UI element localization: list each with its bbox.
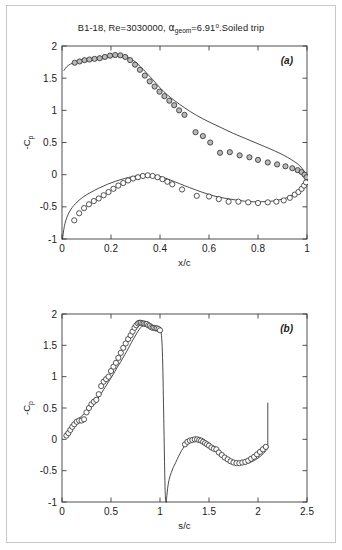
data-marker — [170, 182, 175, 187]
data-marker — [226, 199, 231, 204]
axes-box — [62, 314, 307, 502]
data-marker — [77, 59, 82, 64]
data-marker — [113, 52, 118, 57]
x-tick-label: 0.5 — [104, 506, 118, 517]
alpha-subscript: geom — [175, 27, 192, 34]
y-tick-label: 1 — [51, 371, 57, 382]
data-marker — [194, 193, 199, 198]
data-marker — [227, 150, 232, 155]
data-marker — [113, 360, 118, 365]
data-marker — [72, 218, 77, 223]
data-marker — [72, 60, 77, 65]
data-marker — [281, 198, 286, 203]
y-tick-label: 1.5 — [43, 340, 57, 351]
data-marker — [96, 392, 101, 397]
plot-panel-b: 00.511.522.5-1-0.500.511.52s/c-Cp(b) — [0, 300, 342, 548]
data-marker — [237, 153, 242, 158]
y-axis-label: -Cp — [21, 135, 35, 149]
data-marker — [106, 189, 111, 194]
data-marker — [167, 98, 172, 103]
data-marker — [118, 350, 123, 355]
panel-label: (a) — [281, 55, 294, 66]
data-marker — [255, 157, 260, 162]
x-tick-label: 0.4 — [153, 243, 167, 254]
data-marker — [165, 179, 170, 184]
data-marker — [137, 67, 142, 72]
data-marker — [86, 202, 91, 207]
y-tick-label: 2 — [51, 309, 57, 320]
data-marker — [255, 200, 260, 205]
data-marker — [116, 183, 121, 188]
data-marker — [157, 89, 162, 94]
data-marker — [162, 94, 167, 99]
data-marker — [116, 355, 121, 360]
x-axis-label: x/c — [178, 257, 190, 268]
data-marker — [275, 162, 280, 167]
y-tick-label: -0.5 — [40, 465, 58, 476]
data-marker — [246, 200, 251, 205]
figure-title: B1-18, Re=3030000, αgeom=6.91o.Soiled tr… — [0, 22, 342, 34]
data-marker — [152, 84, 157, 89]
axes-box — [62, 46, 307, 239]
panel-label: (b) — [280, 323, 293, 334]
data-marker — [182, 112, 187, 117]
y-tick-label: 0.5 — [43, 137, 57, 148]
data-marker — [81, 417, 86, 422]
x-tick-label: 0 — [59, 506, 65, 517]
data-marker — [101, 193, 106, 198]
data-marker — [160, 177, 165, 182]
data-marker — [91, 198, 96, 203]
x-tick-label: 0.2 — [104, 243, 118, 254]
data-marker — [200, 133, 205, 138]
data-marker — [155, 175, 160, 180]
svg-text:-Cp: -Cp — [21, 135, 35, 149]
data-curve — [62, 175, 307, 239]
data-marker — [123, 54, 128, 59]
data-marker — [283, 164, 288, 169]
data-marker — [87, 57, 92, 62]
x-tick-label: 1 — [304, 243, 310, 254]
data-marker — [263, 444, 268, 449]
y-tick-label: -1 — [48, 497, 57, 508]
data-marker — [77, 211, 82, 216]
data-marker — [247, 155, 252, 160]
y-tick-label: -1 — [48, 234, 57, 245]
data-marker — [236, 199, 241, 204]
plot-b-canvas: 00.511.522.5-1-0.500.511.52s/c-Cp(b) — [0, 300, 342, 548]
x-axis-label: s/c — [178, 520, 190, 531]
data-marker — [193, 130, 198, 135]
data-marker — [106, 374, 111, 379]
data-marker — [118, 53, 123, 58]
data-marker — [172, 103, 177, 108]
title-tail: .Soiled trip — [219, 23, 264, 33]
data-marker — [216, 197, 221, 202]
plot-a-canvas: 00.20.40.60.81-1-0.500.511.52x/c-Cp(a) — [0, 36, 342, 276]
x-tick-label: 0.6 — [202, 243, 216, 254]
plot-area — [62, 52, 309, 239]
data-marker — [274, 199, 279, 204]
x-tick-label: 2.5 — [300, 506, 314, 517]
data-marker — [265, 200, 270, 205]
data-marker — [145, 173, 150, 178]
y-axis-label: -Cp — [21, 401, 35, 415]
data-curve — [64, 56, 307, 184]
data-marker — [94, 397, 99, 402]
x-tick-label: 1.5 — [202, 506, 216, 517]
data-marker — [265, 160, 270, 165]
x-tick-label: 0.8 — [251, 243, 265, 254]
data-marker — [132, 62, 137, 67]
data-marker — [217, 150, 222, 155]
data-marker — [206, 194, 211, 199]
alpha-value: =6.91 — [191, 23, 215, 33]
y-tick-label: 2 — [51, 41, 57, 52]
data-marker — [135, 175, 140, 180]
data-marker — [142, 73, 147, 78]
data-marker — [290, 166, 295, 171]
data-marker — [128, 58, 133, 63]
data-marker — [81, 206, 86, 211]
data-marker — [208, 140, 213, 145]
data-marker — [150, 173, 155, 178]
data-marker — [97, 56, 102, 61]
plot-area — [64, 320, 269, 502]
plot-panel-a: 00.20.40.60.81-1-0.500.511.52x/c-Cp(a) — [0, 36, 342, 276]
